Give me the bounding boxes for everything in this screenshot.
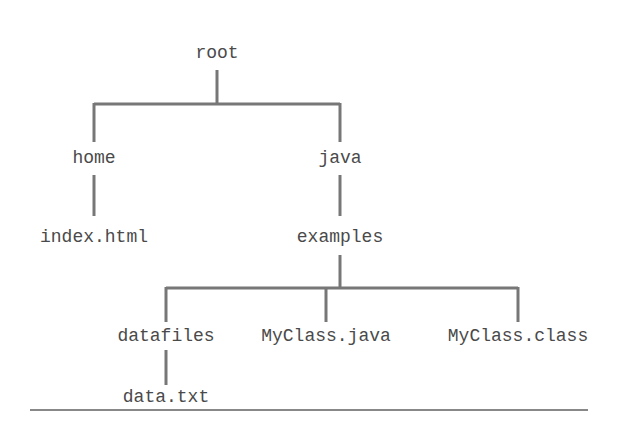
- node-data-txt: data.txt: [123, 387, 209, 407]
- tree-connectors: [0, 0, 618, 423]
- node-index-html: index.html: [40, 227, 148, 247]
- node-datafiles: datafiles: [117, 326, 214, 346]
- node-java: java: [318, 148, 361, 168]
- node-examples: examples: [297, 227, 383, 247]
- node-root: root: [195, 43, 238, 63]
- node-home: home: [72, 148, 115, 168]
- node-myclass-class: MyClass.class: [448, 326, 588, 346]
- node-myclass-java: MyClass.java: [261, 326, 391, 346]
